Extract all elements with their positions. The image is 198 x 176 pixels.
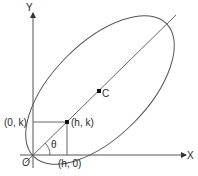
- x-axis-label: X: [187, 150, 194, 161]
- point-h0-label: (h, 0): [58, 158, 81, 169]
- angle-theta-label: θ: [51, 139, 57, 150]
- ellipse-diagram: Y X O (0, k) (h, k) (h, 0) C θ: [0, 0, 198, 176]
- origin-label: O: [22, 157, 30, 168]
- point-c-marker: [97, 89, 101, 93]
- centre-label: C: [102, 88, 109, 99]
- ellipse: [0, 0, 198, 176]
- y-axis-label: Y: [26, 2, 33, 13]
- angle-arc: [45, 143, 50, 155]
- point-0k-label: (0, k): [4, 117, 27, 128]
- point-hk-label: (h, k): [71, 117, 94, 128]
- point-hk-marker: [65, 120, 69, 124]
